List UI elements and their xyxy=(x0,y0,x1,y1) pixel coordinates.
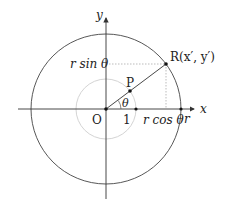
y-axis-label: y xyxy=(96,9,103,21)
point-R xyxy=(164,62,168,66)
point-unit xyxy=(134,107,137,110)
r-sin-label: r sin θ xyxy=(70,58,108,70)
point-r-on-x xyxy=(179,107,182,110)
point-P-label: P xyxy=(126,77,134,89)
unit-tick-label: 1 xyxy=(123,114,131,126)
r-tick-label: r xyxy=(184,113,190,125)
point-origin xyxy=(104,107,108,111)
radius-line xyxy=(106,64,166,109)
diagram-canvas xyxy=(0,0,225,211)
point-R-label: R(x′, y′) xyxy=(170,51,215,63)
angle-arc xyxy=(118,101,121,110)
r-cos-label: r cos θ xyxy=(143,114,184,126)
x-axis-label: x xyxy=(200,103,207,115)
angle-label: θ xyxy=(122,98,129,109)
origin-label: O xyxy=(92,114,102,126)
